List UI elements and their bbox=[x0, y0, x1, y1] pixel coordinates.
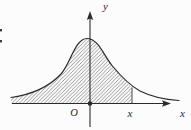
x-axis-label: x bbox=[179, 107, 185, 119]
edge-artifact-mark bbox=[0, 40, 2, 42]
normal-distribution-diagram: y x O x bbox=[0, 0, 191, 130]
origin-dot bbox=[88, 101, 93, 106]
point-x-label: x bbox=[127, 107, 133, 119]
origin-label: O bbox=[70, 107, 78, 118]
y-axis-label: y bbox=[102, 0, 108, 12]
figure-canvas: y x O x bbox=[0, 0, 191, 130]
edge-artifact-mark bbox=[0, 29, 2, 31]
